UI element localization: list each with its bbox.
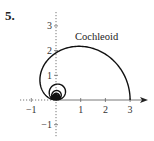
y-tick-label: 3 xyxy=(47,20,52,31)
x-tick-label: −1 xyxy=(26,104,37,115)
cochleoid-curve xyxy=(40,46,130,100)
cochleoid-plot: −1123321−1 Cochleoid xyxy=(0,0,154,141)
y-tick-label: −1 xyxy=(41,119,52,130)
y-tick-label: 2 xyxy=(47,45,52,56)
x-tick-label: 1 xyxy=(78,104,83,115)
x-tick-label: 2 xyxy=(103,104,108,115)
curve-label: Cochleoid xyxy=(75,31,119,42)
y-tick-label: 1 xyxy=(47,70,52,81)
x-tick-label: 3 xyxy=(128,104,133,115)
